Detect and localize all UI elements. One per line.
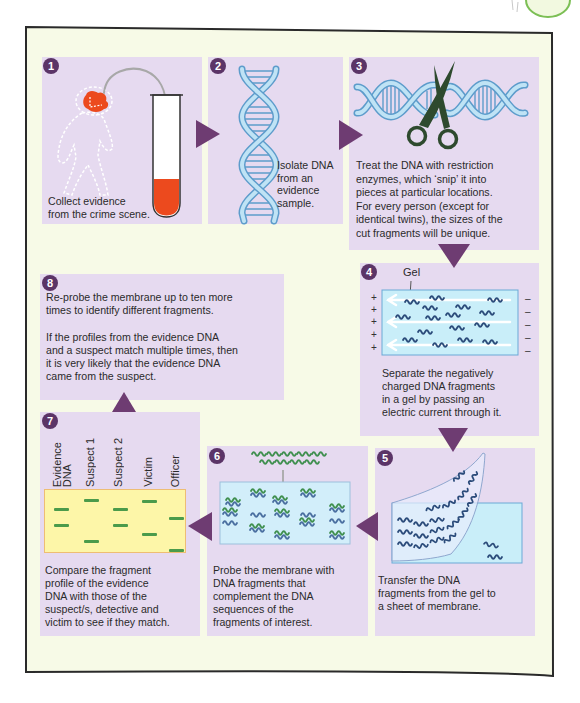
lane-label-suspect-1: Suspect 1 [85, 438, 95, 487]
step-5-panel: 5 Transfer the DNA fragments from the ge… [375, 448, 535, 636]
dna-band [113, 508, 128, 511]
dna-band [142, 533, 157, 536]
step-2-panel: 2 Isolate DNA from an evidence sample. [208, 57, 343, 224]
step-6-description: Probe the membrane with DNA fragments th… [213, 564, 334, 629]
step-number-badge: 8 [42, 275, 58, 291]
test-tube-icon [150, 95, 183, 217]
lane-label-officer: Officer [170, 455, 180, 487]
step-1-panel: 1 Collect evidence from the crime scene. [42, 57, 202, 224]
step-3-panel: 3 Treat the [349, 57, 539, 250]
step-7-description: Compare the fragment profile of the evid… [45, 564, 170, 629]
step-1-description: Collect evidence from the crime scene. [48, 195, 150, 221]
lane-label-suspect-2: Suspect 2 [113, 438, 123, 487]
lane-label-evidence-dna: Evidence DNA [52, 442, 72, 487]
blood-evidence-icon [83, 91, 108, 112]
step-8-paragraph-2: If the profiles from the evidence DNA an… [46, 331, 238, 383]
comparison-gel [44, 489, 186, 553]
step-8-description: Re-probe the membrane up to ten more tim… [46, 291, 238, 397]
dna-band [54, 508, 69, 511]
corner-circle-decoration [526, 0, 570, 17]
dna-band [84, 499, 99, 502]
step-7-panel: 7 Evidence DNA Suspect 1 Suspect 2 Victi… [40, 412, 200, 636]
dna-band [169, 549, 184, 552]
step-3-description: Treat the DNA with restriction enzymes, … [356, 159, 503, 240]
step-4-panel: 4 Gel + + + + + – – – – – Separate the n… [360, 263, 539, 436]
dna-band [169, 517, 184, 520]
step-6-panel: 6 Probe the membrane with DNA fragme [207, 446, 368, 636]
step-2-description: Isolate DNA from an evidence sample. [277, 159, 334, 209]
step-5-description: Transfer the DNA fragments from the gel … [378, 574, 496, 613]
dna-band [54, 524, 69, 527]
dna-probes-icon [252, 452, 326, 464]
lane-labels: Evidence DNA Suspect 1 Suspect 2 Victim … [40, 412, 200, 487]
dna-band [142, 500, 157, 503]
dna-band [113, 524, 128, 527]
step-8-panel: 8 Re-probe the membrane up to ten more t… [40, 274, 284, 400]
step-8-paragraph-1: Re-probe the membrane up to ten more tim… [46, 291, 238, 317]
lane-label-victim: Victim [143, 457, 153, 487]
dna-band [84, 540, 99, 543]
step-4-description: Separate the negatively charged DNA frag… [382, 367, 502, 419]
corner-scribble-decoration [512, 0, 518, 12]
